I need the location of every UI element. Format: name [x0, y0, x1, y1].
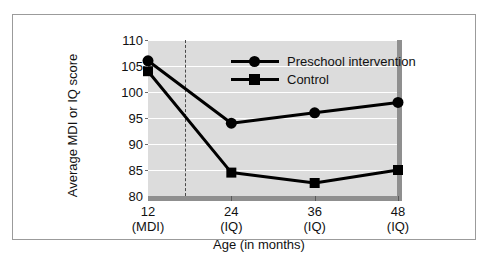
y-axis-tick-label: 85: [109, 164, 143, 177]
x-axis-title: Age (in months): [13, 237, 492, 252]
x-axis-tick-value: 24: [201, 204, 261, 219]
y-axis-tick-mark: [145, 40, 148, 41]
x-axis-tick-value: 48: [368, 204, 428, 219]
x-axis-tick-value: 36: [285, 204, 345, 219]
legend-marker-square: [249, 74, 260, 85]
x-axis-tick-label: 12(MDI): [118, 204, 178, 234]
legend-label: Preschool intervention: [279, 54, 416, 69]
y-axis-tick-mark: [145, 118, 148, 119]
x-axis-tick-mark: [315, 196, 316, 201]
y-axis-tick-label: 95: [109, 112, 143, 125]
legend-item: Control: [231, 70, 416, 88]
y-axis-tick-label: 110: [109, 34, 143, 47]
data-point-square: [393, 165, 403, 175]
data-point-square: [310, 178, 320, 188]
x-axis-bar: [148, 196, 402, 201]
data-point-circle: [143, 55, 154, 66]
data-point-circle: [309, 107, 320, 118]
y-axis-tick-mark: [145, 170, 148, 171]
y-axis-tick-label: 90: [109, 138, 143, 151]
x-axis-tick-unit: (IQ): [285, 219, 345, 234]
y-axis-tick-mark: [145, 66, 148, 67]
x-axis-tick-label: 48(IQ): [368, 204, 428, 234]
legend-marker-circle: [249, 56, 260, 67]
legend-item: Preschool intervention: [231, 52, 416, 70]
data-point-square: [226, 168, 236, 178]
legend-circle-icon: [231, 53, 279, 69]
y-axis-title: Average MDI or IQ score: [65, 51, 80, 201]
chart-legend: Preschool interventionControl: [231, 52, 416, 88]
y-axis-tick-mark: [145, 92, 148, 93]
y-axis-tick-label: 100: [109, 86, 143, 99]
x-axis-tick-unit: (MDI): [118, 219, 178, 234]
x-axis-tick-unit: (IQ): [201, 219, 261, 234]
x-axis-tick-mark: [398, 196, 399, 201]
y-axis-tick-label: 80: [109, 190, 143, 203]
legend-square-icon: [231, 71, 279, 87]
y-axis-tick-label: 105: [109, 60, 143, 73]
x-axis-tick-label: 36(IQ): [285, 204, 345, 234]
data-point-circle: [226, 118, 237, 129]
chart-frame: 80859095100105110 Average MDI or IQ scor…: [12, 14, 476, 240]
x-axis-tick-mark: [231, 196, 232, 201]
data-point-circle: [393, 97, 404, 108]
legend-label: Control: [279, 72, 329, 87]
x-axis-tick-unit: (IQ): [368, 219, 428, 234]
y-axis-tick-mark: [145, 144, 148, 145]
x-axis-tick-value: 12: [118, 204, 178, 219]
x-axis-tick-label: 24(IQ): [201, 204, 261, 234]
data-point-square: [143, 66, 153, 76]
